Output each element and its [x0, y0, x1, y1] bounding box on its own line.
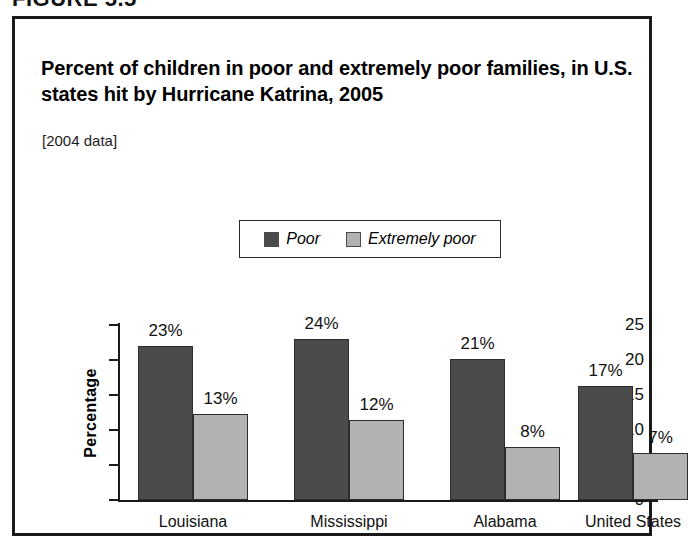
x-axis-category-label: Alabama	[473, 513, 536, 531]
figure-frame: Percent of children in poor and extremel…	[12, 16, 652, 536]
bar	[450, 359, 505, 500]
legend-label: Poor	[286, 230, 320, 248]
figure-number: FIGURE 5.5	[12, 0, 137, 12]
y-axis-line	[118, 323, 120, 502]
y-axis-tick	[109, 324, 118, 326]
bar-value-label: 8%	[520, 422, 545, 442]
x-axis-category-label: United States	[585, 513, 681, 531]
bar-value-label: 21%	[460, 334, 494, 354]
bar	[633, 453, 688, 500]
y-axis-tick	[109, 464, 118, 466]
bar	[193, 414, 248, 500]
x-axis-line	[118, 500, 658, 502]
chart-title: Percent of children in poor and extremel…	[41, 55, 641, 108]
y-axis-title: Percentage	[82, 368, 100, 457]
bar	[578, 386, 633, 500]
legend-swatch-icon	[264, 232, 279, 247]
legend-item-extremely-poor[interactable]: Extremely poor	[346, 230, 476, 248]
legend-item-poor[interactable]: Poor	[264, 230, 320, 248]
bar	[349, 420, 404, 501]
y-axis-tick	[109, 394, 118, 396]
y-axis-tick	[109, 429, 118, 431]
x-axis-category-label: Louisiana	[159, 513, 228, 531]
bar-value-label: 17%	[588, 361, 622, 381]
bar-value-label: 13%	[203, 389, 237, 409]
x-axis-category-label: Mississippi	[310, 513, 387, 531]
plot-area: Percentage 051015202523%13%Louisiana24%1…	[118, 325, 658, 500]
legend-swatch-icon	[346, 232, 361, 247]
bar-value-label: 23%	[148, 321, 182, 341]
chart-subtitle: [2004 data]	[42, 132, 117, 149]
bar	[505, 447, 560, 500]
chart-legend: PoorExtremely poor	[239, 220, 501, 258]
bar	[294, 339, 349, 500]
bar-value-label: 12%	[359, 395, 393, 415]
y-axis-tick-label: 25	[604, 315, 644, 335]
y-axis-tick	[109, 499, 118, 501]
y-axis-tick	[109, 359, 118, 361]
bar-value-label: 7%	[648, 428, 673, 448]
legend-label: Extremely poor	[368, 230, 476, 248]
bar-value-label: 24%	[304, 314, 338, 334]
bar	[138, 346, 193, 500]
